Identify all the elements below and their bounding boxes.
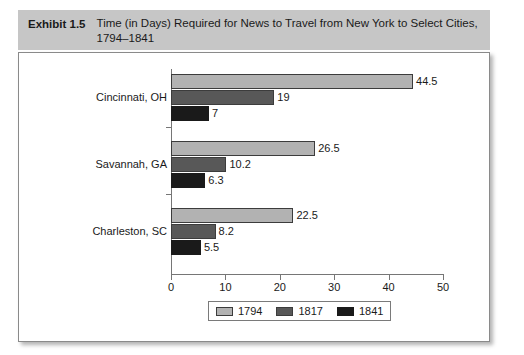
legend-item-1817[interactable]: 1817 bbox=[276, 305, 322, 317]
x-axis-tick bbox=[389, 275, 390, 280]
bar-value-label: 10.2 bbox=[226, 157, 250, 172]
bar-row: 44.5 bbox=[171, 74, 443, 89]
bar-row: 7 bbox=[171, 106, 443, 121]
chart-legend: 179418171841 bbox=[208, 301, 391, 321]
bar-value-label: 7 bbox=[209, 106, 218, 121]
y-axis-tick bbox=[166, 127, 172, 128]
bar-1841-charlestonsc[interactable] bbox=[171, 240, 201, 255]
bar-group: 26.510.26.3 bbox=[171, 141, 443, 188]
legend-label: 1841 bbox=[359, 305, 383, 317]
bar-1841-savannahga[interactable] bbox=[171, 173, 205, 188]
exhibit-header: Exhibit 1.5 Time (in Days) Required for … bbox=[18, 10, 490, 50]
x-axis-tick bbox=[171, 275, 172, 280]
legend-label: 1817 bbox=[298, 305, 322, 317]
bar-1817-charlestonsc[interactable] bbox=[171, 224, 216, 239]
bar-value-label: 22.5 bbox=[293, 208, 317, 223]
legend-swatch-icon bbox=[276, 307, 293, 316]
category-label: Savannah, GA bbox=[27, 158, 167, 170]
x-axis-tick bbox=[443, 275, 444, 280]
x-axis-tick-label: 30 bbox=[328, 281, 340, 293]
bar-1794-cincinnatioh[interactable] bbox=[171, 74, 413, 89]
bar-group: 44.5197 bbox=[171, 74, 443, 121]
x-axis-tick-label: 0 bbox=[168, 281, 174, 293]
bar-row: 10.2 bbox=[171, 157, 443, 172]
category-label: Charleston, SC bbox=[27, 225, 167, 237]
bar-value-label: 19 bbox=[274, 90, 289, 105]
x-axis-tick-label: 10 bbox=[219, 281, 231, 293]
x-axis-tick-label: 40 bbox=[382, 281, 394, 293]
legend-item-1794[interactable]: 1794 bbox=[216, 305, 262, 317]
bar-value-label: 8.2 bbox=[216, 224, 234, 239]
bar-group: 22.58.25.5 bbox=[171, 208, 443, 255]
bar-row: 6.3 bbox=[171, 173, 443, 188]
exhibit-label: Exhibit 1.5 bbox=[28, 16, 86, 32]
bar-1817-savannahga[interactable] bbox=[171, 157, 226, 172]
x-axis-tick-label: 20 bbox=[274, 281, 286, 293]
category-label: Cincinnati, OH bbox=[27, 91, 167, 103]
bar-row: 8.2 bbox=[171, 224, 443, 239]
bar-value-label: 26.5 bbox=[315, 141, 339, 156]
x-axis-tick-label: 50 bbox=[437, 281, 449, 293]
chart-panel: Cincinnati, OHSavannah, GACharleston, SC… bbox=[18, 52, 490, 342]
bar-value-label: 44.5 bbox=[413, 74, 437, 89]
bar-1794-savannahga[interactable] bbox=[171, 141, 315, 156]
bar-1794-charlestonsc[interactable] bbox=[171, 208, 293, 223]
bar-row: 26.5 bbox=[171, 141, 443, 156]
bar-value-label: 6.3 bbox=[205, 173, 223, 188]
x-axis-tick bbox=[334, 275, 335, 280]
legend-item-1841[interactable]: 1841 bbox=[337, 305, 383, 317]
bar-row: 5.5 bbox=[171, 240, 443, 255]
bar-row: 19 bbox=[171, 90, 443, 105]
y-axis-category-labels: Cincinnati, OHSavannah, GACharleston, SC bbox=[23, 71, 167, 273]
bar-1841-cincinnatioh[interactable] bbox=[171, 106, 209, 121]
legend-swatch-icon bbox=[337, 307, 354, 316]
plot-area: 44.519726.510.26.322.58.25.5 bbox=[171, 71, 443, 273]
y-axis-tick bbox=[166, 194, 172, 195]
bar-value-label: 5.5 bbox=[201, 240, 219, 255]
exhibit-title: Time (in Days) Required for News to Trav… bbox=[97, 16, 482, 46]
bar-row: 22.5 bbox=[171, 208, 443, 223]
x-axis-tick bbox=[225, 275, 226, 280]
x-axis-line bbox=[171, 274, 444, 275]
x-axis-tick bbox=[280, 275, 281, 280]
legend-label: 1794 bbox=[238, 305, 262, 317]
bar-1817-cincinnatioh[interactable] bbox=[171, 90, 274, 105]
legend-swatch-icon bbox=[216, 307, 233, 316]
